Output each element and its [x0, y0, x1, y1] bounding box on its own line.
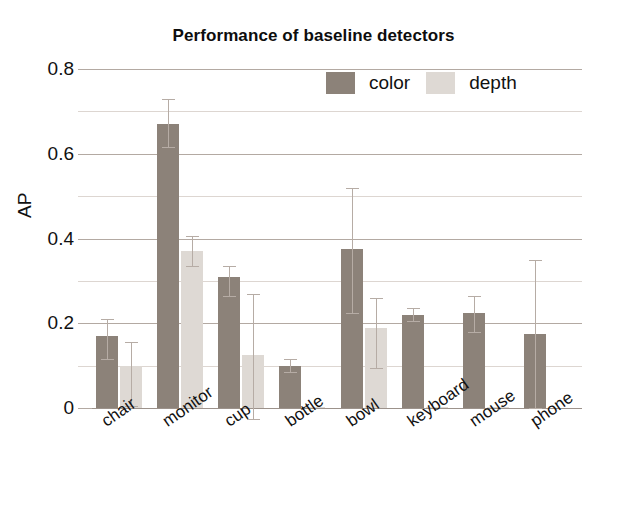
gridline-major — [92, 69, 582, 70]
y-tick-label: 0 — [14, 397, 74, 419]
error-bar-chair-color — [107, 319, 108, 359]
error-bar-monitor-color — [168, 99, 169, 148]
error-bar-bowl-color — [352, 188, 353, 313]
error-bar-phone-color — [535, 260, 536, 408]
y-tick-mark — [78, 408, 92, 409]
error-cap-upper-phone-color — [529, 260, 542, 261]
error-cap-upper-keyboard-color — [407, 308, 420, 309]
error-bar-bowl-depth — [376, 298, 377, 368]
error-cap-upper-monitor-depth — [186, 236, 199, 237]
y-tick-mark — [78, 323, 92, 324]
error-cap-upper-cup-color — [223, 266, 236, 267]
error-cap-upper-chair-color — [101, 319, 114, 320]
y-tick-mark-minor — [78, 281, 92, 282]
bar-monitor-color — [157, 124, 179, 408]
error-bar-mouse-color — [474, 296, 475, 332]
y-tick-mark-minor — [78, 196, 92, 197]
error-cap-upper-bowl-depth — [370, 298, 383, 299]
error-cap-lower-keyboard-color — [407, 321, 420, 322]
chart-title: Performance of baseline detectors — [0, 26, 627, 46]
y-tick-label: 0.4 — [14, 228, 74, 250]
y-tick-label: 0.2 — [14, 312, 74, 334]
y-tick-label: 0.6 — [14, 143, 74, 165]
chart-container: Performance of baseline detectors AP col… — [0, 0, 627, 518]
error-bar-cup-depth — [253, 294, 254, 419]
error-cap-lower-monitor-depth — [186, 266, 199, 267]
error-cap-lower-mouse-color — [468, 332, 481, 333]
error-bar-keyboard-color — [413, 308, 414, 321]
error-cap-upper-bottle-color — [284, 359, 297, 360]
error-cap-upper-mouse-color — [468, 296, 481, 297]
error-cap-lower-bowl-color — [346, 313, 359, 314]
error-bar-monitor-depth — [192, 236, 193, 266]
error-cap-upper-chair-depth — [125, 342, 138, 343]
error-cap-upper-cup-depth — [247, 294, 260, 295]
error-cap-lower-bottle-color — [284, 372, 297, 373]
y-axis-label: AP — [14, 193, 36, 218]
y-tick-mark — [78, 154, 92, 155]
error-bar-bottle-color — [290, 359, 291, 372]
error-cap-upper-bowl-color — [346, 188, 359, 189]
error-cap-lower-cup-color — [223, 296, 236, 297]
y-tick-mark-minor — [78, 111, 92, 112]
bar-monitor-depth — [181, 251, 203, 408]
error-cap-lower-chair-color — [101, 359, 114, 360]
error-bar-cup-color — [229, 266, 230, 296]
bar-keyboard-color — [402, 315, 424, 408]
y-tick-label: 0.8 — [14, 58, 74, 80]
plot-area — [92, 69, 582, 408]
error-cap-lower-monitor-color — [162, 147, 175, 148]
y-tick-mark-minor — [78, 366, 92, 367]
gridline-minor — [92, 111, 582, 112]
error-cap-upper-monitor-color — [162, 99, 175, 100]
error-cap-lower-bowl-depth — [370, 368, 383, 369]
y-tick-mark — [78, 239, 92, 240]
y-tick-mark — [78, 69, 92, 70]
